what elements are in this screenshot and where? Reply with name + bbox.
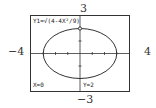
equation-label: Y1=√(4-4X²/9) (33, 17, 80, 24)
ymin-label: −3 (77, 93, 93, 106)
xmax-label: 4 (144, 45, 151, 58)
cursor-y-value: Y=2 (83, 81, 94, 88)
trace-cursor (78, 27, 81, 30)
ymax-label: 3 (80, 2, 87, 15)
cursor-x-value: X=0 (33, 81, 44, 88)
calculator-screen: Y1=√(4-4X²/9) X=0 Y=2 (30, 15, 130, 92)
xmin-label: −4 (8, 45, 24, 58)
graph-plot (31, 16, 129, 91)
